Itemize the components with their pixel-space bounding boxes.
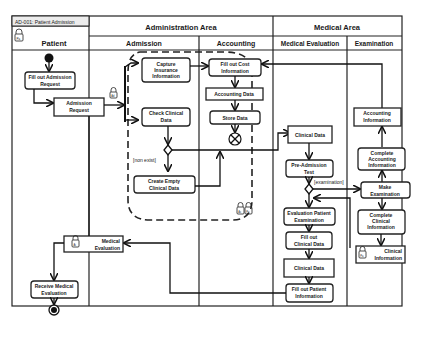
action-create-empty-clinical-data[interactable]: Create EmptyClinical Data xyxy=(134,176,195,193)
action-fill-out-clinical-data[interactable]: Fill outClinical Data xyxy=(286,232,332,249)
lane-accounting-label: Accounting xyxy=(217,40,256,48)
decision-node xyxy=(164,145,172,155)
svg-text:Pa: Pa xyxy=(246,210,250,214)
svg-text:Create EmptyClinical Data: Create EmptyClinical Data xyxy=(148,178,180,191)
action-check-clinical-data[interactable]: Check ClinicalData xyxy=(142,108,190,126)
action-pre-admission-test[interactable]: Pre-AdmissionTest xyxy=(286,160,333,177)
action-make-examination[interactable]: MakeExamination xyxy=(361,182,410,198)
svg-text:Accounting Data: Accounting Data xyxy=(214,91,254,97)
decision-examination xyxy=(305,184,313,194)
svg-text:Clinical Data: Clinical Data xyxy=(294,265,324,271)
patient-lock-tag: Pa xyxy=(17,37,21,41)
svg-text:Ac: Ac xyxy=(238,210,242,214)
svg-text:Fill out CostInformation: Fill out CostInformation xyxy=(221,61,250,74)
action-complete-clinical-information[interactable]: CompleteClinicalInformation xyxy=(358,210,405,234)
group-medical-label: Medical Area xyxy=(314,23,361,32)
action-complete-accounting-information[interactable]: CompleteAccountingInformation xyxy=(358,148,405,170)
initial-node xyxy=(45,54,54,63)
lane-patient-label: Patient xyxy=(41,39,67,48)
svg-text:Store Data: Store Data xyxy=(222,115,247,121)
object-admission-request[interactable]: AdmissionRequest xyxy=(54,98,104,116)
svg-text:Ad: Ad xyxy=(111,94,115,98)
action-store-data[interactable]: Store Data xyxy=(210,111,260,124)
lane-medical-evaluation-label: Medical Evaluation xyxy=(281,40,340,47)
lane-examination-label: Examination xyxy=(355,40,394,47)
action-evaluation-patient-examination[interactable]: Evaluation PatientExamination xyxy=(284,208,335,225)
svg-text:Clinical Data: Clinical Data xyxy=(295,132,325,138)
action-fill-cost-information[interactable]: Fill out CostInformation xyxy=(209,59,261,76)
svg-text:Fill out PatientInformation: Fill out PatientInformation xyxy=(292,286,327,299)
lane-admission-label: Admission xyxy=(126,40,162,47)
flow-final-node xyxy=(229,133,241,145)
object-accounting-data[interactable]: Accounting Data xyxy=(206,88,263,100)
guard-non-exist: [non exist] xyxy=(133,157,156,163)
diagram-id-label: AD-001: Patient Admission xyxy=(15,19,75,25)
object-accounting-information[interactable]: AccountingInformation xyxy=(354,108,401,126)
svg-text:AccountingInformation: AccountingInformation xyxy=(363,110,391,123)
svg-text:Pa: Pa xyxy=(360,254,364,258)
svg-text:AdmissionRequest: AdmissionRequest xyxy=(66,100,92,113)
object-clinical-data-1[interactable]: Clinical Data xyxy=(288,126,332,143)
svg-text:CompleteAccountingInformation: CompleteAccountingInformation xyxy=(368,150,396,168)
group-administration-label: Administration Area xyxy=(145,23,217,32)
action-capture-insurance[interactable]: CaptureInsuranceInformation xyxy=(142,58,190,82)
activity-diagram: AD-001: Patient Admission Administration… xyxy=(0,0,430,341)
action-fill-out-patient-information[interactable]: Fill out PatientInformation xyxy=(286,284,333,302)
object-clinical-data-2[interactable]: Clinical Data xyxy=(284,259,334,277)
action-fill-admission-request[interactable]: Fill out AdmissionRequest xyxy=(25,72,75,89)
activity-final-node xyxy=(49,305,59,315)
guard-examination: [examination] xyxy=(314,179,344,185)
action-receive-medical-evaluation[interactable]: Receive MedicalEvaluation xyxy=(31,281,78,298)
swimlane-frame xyxy=(12,16,402,306)
